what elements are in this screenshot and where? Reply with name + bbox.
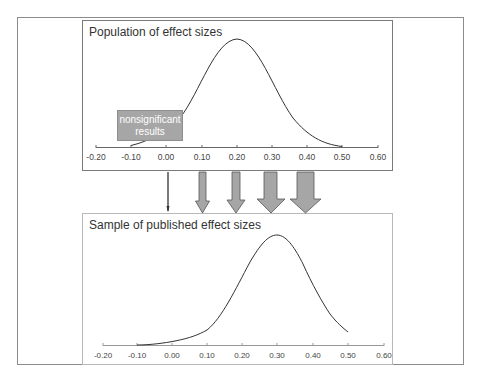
population-tick-label: -0.10 [121, 152, 140, 162]
arrow-0-00-head-icon [167, 206, 170, 212]
arrow-0-20-icon [227, 172, 245, 213]
sample-tick-label: 0.50 [340, 351, 356, 360]
population-tick-label: 0.30 [264, 152, 281, 162]
population-tick-label: 0.50 [334, 152, 351, 162]
sample-tick-label: 0.20 [234, 351, 250, 360]
sample-tick-label: 0.40 [305, 351, 321, 360]
population-tick-label: -0.20 [86, 152, 105, 162]
sample-tick-label: 0.30 [269, 351, 285, 360]
arrow-0-10-icon [196, 172, 210, 213]
population-tick-label: 0.20 [229, 152, 246, 162]
callout-line-1: nonsignificant [118, 114, 182, 126]
sample-tick-label: 0.10 [199, 351, 215, 360]
selection-arrows [167, 172, 322, 213]
population-tick-label: 0.00 [158, 152, 175, 162]
sample-tick-label: -0.20 [94, 351, 112, 360]
arrow-0-40-icon [290, 172, 321, 213]
population-tick-label: 0.10 [194, 152, 211, 162]
callout-line-2: results [118, 126, 182, 138]
arrow-0-30-icon [257, 172, 285, 213]
population-tick-label: 0.40 [299, 152, 316, 162]
nonsignificant-results-callout: nonsignificant results [117, 110, 183, 141]
sample-tick-label: -0.10 [128, 351, 146, 360]
diagram-graphics [0, 0, 482, 384]
sample-tick-label: 0.60 [376, 351, 392, 360]
sample-tick-label: 0.00 [164, 351, 180, 360]
sample-curve [137, 235, 348, 345]
population-tick-label: 0.60 [370, 152, 387, 162]
